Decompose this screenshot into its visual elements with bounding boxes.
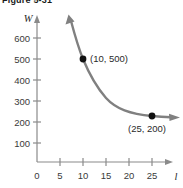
y-tick-label-400: 400	[14, 75, 30, 86]
x-tick-labels: 0 5 10 15 20 25	[34, 170, 157, 181]
data-points	[80, 56, 156, 120]
x-tick-label-10: 10	[78, 170, 89, 181]
y-axis-arrow-icon	[34, 15, 40, 23]
y-tick-label-200: 200	[14, 117, 30, 128]
data-point-marker-1	[80, 56, 87, 63]
y-tick-labels: 600 500 400 300 200 100	[14, 33, 30, 149]
data-point-marker-2	[149, 113, 156, 120]
y-tick-label-100: 100	[14, 138, 30, 149]
y-axis	[34, 15, 40, 162]
data-point-label-2: (25, 200)	[128, 123, 166, 134]
x-tick-label-0: 0	[34, 170, 39, 181]
y-tick-label-500: 500	[14, 54, 30, 65]
x-tick-label-15: 15	[101, 170, 112, 181]
x-axis	[37, 159, 173, 165]
y-axis-label: W	[24, 13, 34, 24]
curve-path	[71, 21, 171, 117]
figure-container: Figure 5-31	[0, 0, 183, 188]
y-tick-label-600: 600	[14, 33, 30, 44]
curve-start-arrow-icon	[66, 15, 75, 25]
x-tick-label-25: 25	[147, 170, 158, 181]
curve-series	[66, 15, 181, 122]
data-point-label-1: (10, 500)	[90, 53, 128, 64]
x-tick-label-20: 20	[124, 170, 135, 181]
inverse-variation-graph: 600 500 400 300 200 100 0 5 10 15 20 25 …	[0, 0, 183, 188]
y-tick-label-300: 300	[14, 96, 30, 107]
x-axis-arrow-icon	[165, 159, 173, 165]
x-axis-label: l	[175, 171, 178, 182]
curve-end-arrow-icon	[169, 114, 180, 121]
x-tick-label-5: 5	[57, 170, 62, 181]
